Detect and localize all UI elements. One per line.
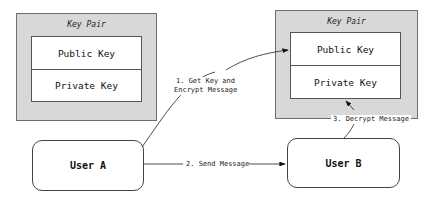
step1-label: 1. Get Key and Encrypt Message: [174, 77, 237, 95]
connector-arrows: [0, 0, 434, 201]
arrow-get-key-head: [226, 50, 288, 70]
arrow-decrypt-head: [346, 101, 354, 110]
step3-label: 3. Decrypt Message: [331, 115, 411, 124]
step1-line2: Encrypt Message: [174, 86, 237, 95]
step1-line1: 1. Get Key and: [174, 77, 237, 86]
arrow-decrypt: [344, 124, 354, 138]
step2-label: 2. Send Message: [186, 160, 249, 169]
